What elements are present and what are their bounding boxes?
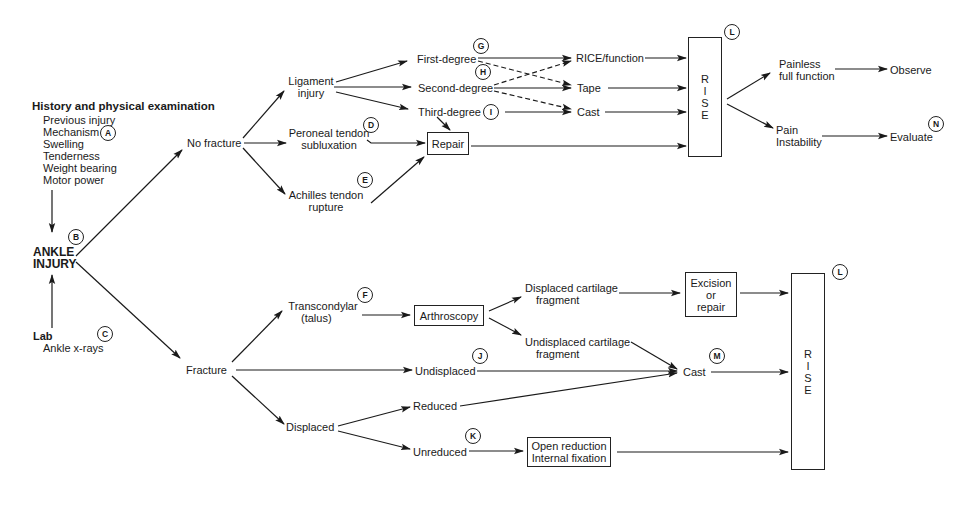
achilles-line2: rupture	[287, 201, 365, 213]
observe-label: Observe	[890, 64, 932, 76]
marker-b: B	[68, 229, 84, 245]
marker-a: A	[100, 125, 116, 141]
excision-line3: repair	[697, 301, 725, 313]
excision-line1: Excision	[691, 277, 732, 289]
history-item: Weight bearing	[43, 162, 117, 174]
dashed-second-to-cast	[494, 91, 571, 109]
cast-bottom-label: Cast	[683, 366, 706, 378]
undisplaced-cartilage-line1: Undisplaced cartilage	[525, 336, 630, 348]
rise-letter: I	[806, 360, 809, 372]
arrow-to-transcondylar	[232, 311, 282, 362]
arrow-to-first-degree	[336, 61, 407, 82]
history-item: Mechanism	[43, 126, 99, 138]
marker-d: D	[363, 117, 379, 133]
arrow-achilles-to-repair	[371, 157, 424, 203]
rise-letter: R	[804, 348, 812, 360]
history-item: Tenderness	[43, 150, 100, 162]
rise-letter: S	[804, 372, 811, 384]
pain-line1: Pain	[776, 124, 798, 136]
marker-e: E	[357, 172, 373, 188]
rise-letter: E	[701, 109, 708, 121]
lab-item: Ankle x-rays	[43, 342, 104, 354]
rise-letter: S	[701, 97, 708, 109]
orif-line2: Internal fixation	[532, 452, 607, 464]
marker-c: C	[97, 326, 113, 342]
arrow-arthroscopy-to-displaced-cartilage	[489, 297, 521, 311]
excision-box: Excision or repair	[685, 272, 737, 317]
arrow-to-ligament	[243, 91, 284, 138]
marker-j: J	[472, 348, 488, 364]
reduced-label: Reduced	[413, 400, 457, 412]
transcondylar-line1: Transcondylar	[286, 300, 360, 312]
arrow-rise-to-pain	[727, 104, 773, 128]
marker-l-bottom: L	[832, 264, 848, 280]
cast-top-label: Cast	[577, 106, 600, 118]
ligament-injury-line2: injury	[286, 87, 336, 99]
pain-line2: Instability	[776, 136, 822, 148]
tape-label: Tape	[577, 82, 601, 94]
marker-m: M	[709, 348, 725, 364]
orif-line1: Open reduction	[531, 440, 606, 452]
arrow-peroneal-to-repair	[367, 140, 425, 143]
evaluate-label: Evaluate	[890, 131, 933, 143]
history-item: Previous injury	[43, 114, 115, 126]
rise-letter: I	[703, 85, 706, 97]
marker-l-top: L	[724, 24, 740, 40]
arrow-undisplaced-cartilage-to-cast	[631, 342, 677, 369]
transcondylar-line2: (talus)	[301, 312, 332, 324]
history-item: Motor power	[43, 174, 104, 186]
displaced-cartilage-line1: Displaced cartilage	[525, 282, 618, 294]
lab-title: Lab	[33, 330, 53, 342]
achilles-line1: Achilles tendon	[287, 189, 365, 201]
arrow-rise-to-painless	[727, 73, 770, 99]
repair-box: Repair	[427, 132, 469, 155]
painless-line2: full function	[779, 70, 835, 82]
first-degree-label: First-degree	[417, 53, 476, 65]
arrow-displaced-to-unreduced	[338, 431, 410, 449]
arthroscopy-box: Arthroscopy	[414, 305, 484, 326]
arrow-to-third-degree	[336, 92, 408, 109]
marker-g: G	[473, 38, 489, 54]
rise-letter: E	[804, 384, 811, 396]
second-degree-label: Second-degree	[418, 82, 493, 94]
displaced-cartilage-line2: fragment	[536, 294, 579, 306]
peroneal-line1: Peroneal tendon	[286, 127, 372, 139]
painless-line1: Painless	[779, 58, 821, 70]
undisplaced-label: Undisplaced	[415, 365, 476, 377]
orif-box: Open reduction Internal fixation	[527, 437, 611, 467]
history-title: History and physical examination	[32, 100, 215, 112]
marker-k: K	[465, 428, 481, 444]
unreduced-label: Unreduced	[413, 446, 467, 458]
rise-box-bottom: R I S E	[791, 273, 825, 470]
arrow-third-to-repair	[437, 117, 450, 130]
arrow-displaced-to-reduced	[338, 407, 410, 426]
marker-n: N	[928, 116, 944, 132]
ligament-injury-line1: Ligament	[286, 75, 336, 87]
excision-line2: or	[706, 289, 716, 301]
marker-i: I	[483, 104, 499, 120]
rise-box-top: R I S E	[688, 37, 722, 157]
arrow-arthroscopy-to-undisplaced-cartilage	[489, 318, 521, 335]
arrow-reduced-to-cast	[460, 373, 677, 406]
no-fracture-label: No fracture	[187, 137, 241, 149]
arrow-to-displaced	[232, 376, 284, 424]
undisplaced-cartilage-line2: fragment	[536, 348, 579, 360]
fracture-label: Fracture	[186, 364, 227, 376]
peroneal-line2: subluxation	[286, 139, 372, 151]
arrow-to-achilles	[243, 148, 285, 194]
displaced-label: Displaced	[286, 421, 334, 433]
rise-letter: R	[701, 73, 709, 85]
third-degree-label: Third-degree	[418, 106, 481, 118]
history-item: Swelling	[43, 138, 84, 150]
ankle-injury-line2: INJURY	[33, 258, 77, 271]
rice-function-label: RICE/function	[576, 52, 644, 64]
marker-f: F	[357, 287, 373, 303]
marker-h: H	[475, 64, 491, 80]
